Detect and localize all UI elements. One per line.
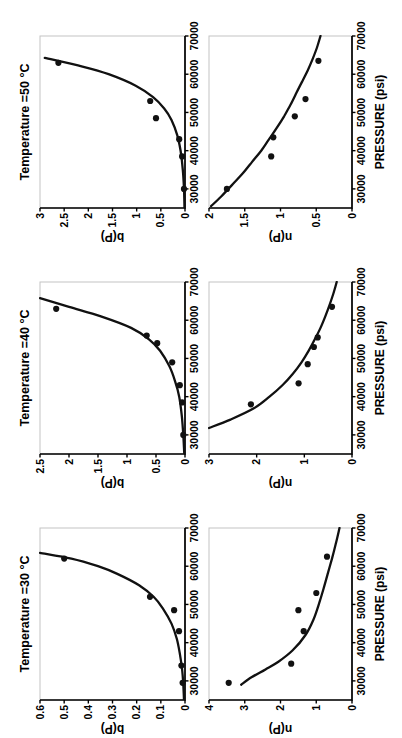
y-tick-label: 1.5 xyxy=(238,213,250,228)
y-tick-label: 2 xyxy=(63,459,75,465)
y-tick-label: 0 xyxy=(346,459,358,465)
y-tick-label: 0 xyxy=(179,705,191,711)
column-30c: 300004000050000600007000000.10.20.30.40.… xyxy=(0,492,402,738)
y-tick-label: 3 xyxy=(238,705,250,711)
x-tick-label: 40000 xyxy=(355,382,367,411)
y-tick-label: 3 xyxy=(203,459,215,465)
x-tick-label: 60000 xyxy=(188,305,200,334)
y-tick-label: 0.5 xyxy=(310,213,322,228)
y-tick-label: 2 xyxy=(250,459,262,465)
data-point xyxy=(154,340,160,346)
y-axis-title: b(P) xyxy=(101,476,124,490)
y-tick-label: 1 xyxy=(121,459,133,465)
x-axis-title: PRESSURE (psi) xyxy=(373,567,387,662)
data-point xyxy=(301,628,307,634)
y-tick-label: 2.5 xyxy=(58,213,70,228)
fit-curve xyxy=(45,58,185,208)
rotated-figure: 300004000050000600007000000.10.20.30.40.… xyxy=(0,0,402,738)
fit-curve xyxy=(40,298,184,454)
y-tick-label: 0 xyxy=(346,213,358,219)
data-point xyxy=(55,60,61,66)
x-tick-label: 50000 xyxy=(355,344,367,373)
data-point xyxy=(288,661,294,667)
x-tick-label: 50000 xyxy=(188,590,200,619)
y-tick-label: 0 xyxy=(179,213,191,219)
x-axis-title: PRESSURE (psi) xyxy=(373,321,387,416)
column-50c: 300004000050000600007000000.511.522.53b(… xyxy=(0,0,402,246)
panel-title: Temperature =50 °C xyxy=(18,64,32,181)
x-tick-label: 70000 xyxy=(188,21,200,50)
axis-lines xyxy=(40,528,185,700)
data-point xyxy=(179,153,185,159)
x-tick-label: 50000 xyxy=(355,98,367,127)
data-point xyxy=(144,332,150,338)
y-tick-label: 0.2 xyxy=(130,705,142,720)
data-point xyxy=(169,359,175,365)
x-tick-label: 70000 xyxy=(188,267,200,296)
data-point xyxy=(153,115,159,121)
axis-lines xyxy=(40,282,185,454)
x-tick-label: 60000 xyxy=(188,59,200,88)
x-tick-label: 50000 xyxy=(188,98,200,127)
data-point xyxy=(177,382,183,388)
y-tick-label: 4 xyxy=(203,705,215,711)
x-tick-label: 70000 xyxy=(355,267,367,296)
figure-viewport: 300004000050000600007000000.10.20.30.40.… xyxy=(0,0,402,738)
data-point xyxy=(268,153,274,159)
data-point xyxy=(181,186,187,192)
x-tick-label: 40000 xyxy=(355,628,367,657)
data-point xyxy=(180,680,186,686)
data-point xyxy=(176,628,182,634)
data-point xyxy=(61,556,67,562)
y-tick-label: 0.5 xyxy=(154,213,166,228)
data-point xyxy=(270,134,276,140)
data-point xyxy=(302,96,308,102)
y-tick-label: 0.6 xyxy=(34,705,46,720)
data-point xyxy=(315,58,321,64)
y-axis-title: n(P) xyxy=(269,476,292,490)
data-point xyxy=(226,680,232,686)
plot-30c-nP: 300004000050000600007000001234n(P)PRESSU… xyxy=(202,492,402,738)
plot-50c-bP: 300004000050000600007000000.511.522.53b(… xyxy=(0,0,202,246)
column-40c: 300004000050000600007000000.511.522.5b(P… xyxy=(0,246,402,492)
x-tick-label: 60000 xyxy=(355,305,367,334)
panel-title: Temperature =40 °C xyxy=(18,310,32,427)
data-point xyxy=(324,554,330,560)
x-tick-label: 60000 xyxy=(355,551,367,580)
x-tick-label: 70000 xyxy=(355,21,367,50)
y-tick-label: 0 xyxy=(346,705,358,711)
y-tick-label: 1.5 xyxy=(106,213,118,228)
plot-frame xyxy=(40,528,185,700)
data-point xyxy=(315,334,321,340)
data-point xyxy=(176,136,182,142)
plot-30c-bP: 300004000050000600007000000.10.20.30.40.… xyxy=(0,492,202,738)
plot-frame xyxy=(209,528,352,700)
y-tick-label: 2 xyxy=(203,213,215,219)
x-axis-title: PRESSURE (psi) xyxy=(373,75,387,170)
fit-curve xyxy=(211,36,320,206)
y-tick-label: 0.3 xyxy=(106,705,118,720)
panel-title: Temperature =30 °C xyxy=(18,556,32,673)
x-tick-label: 30000 xyxy=(355,174,367,203)
x-tick-label: 40000 xyxy=(355,136,367,165)
y-tick-label: 2.5 xyxy=(34,459,46,474)
data-point xyxy=(296,380,302,386)
y-tick-label: 0 xyxy=(179,459,191,465)
data-point xyxy=(329,304,335,310)
data-point xyxy=(147,98,153,104)
data-point xyxy=(292,113,298,119)
axis-lines xyxy=(209,528,352,700)
y-tick-label: 1 xyxy=(130,213,142,219)
data-point xyxy=(178,663,184,669)
data-point xyxy=(248,401,254,407)
x-tick-label: 40000 xyxy=(188,382,200,411)
y-axis-title: n(P) xyxy=(269,722,292,736)
y-tick-label: 3 xyxy=(34,213,46,219)
x-tick-label: 60000 xyxy=(355,59,367,88)
x-tick-label: 30000 xyxy=(188,174,200,203)
x-tick-label: 30000 xyxy=(355,666,367,695)
y-axis-title: b(P) xyxy=(101,722,124,736)
plot-40c-nP: 30000400005000060000700000123n(P)PRESSUR… xyxy=(202,246,402,492)
y-tick-label: 2 xyxy=(82,213,94,219)
y-tick-label: 0.5 xyxy=(58,705,70,720)
